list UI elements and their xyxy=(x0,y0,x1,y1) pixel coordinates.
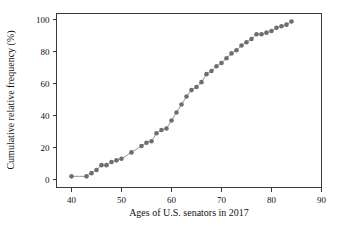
data-point xyxy=(234,48,239,53)
plot-frame xyxy=(57,14,322,188)
cumulative-frequency-chart: 405060708090 020406080100 Ages of U.S. s… xyxy=(0,0,341,229)
data-point xyxy=(104,163,109,168)
data-point xyxy=(254,32,259,37)
data-point xyxy=(94,168,99,173)
data-point xyxy=(69,174,74,179)
data-point xyxy=(214,64,219,69)
ogive-line xyxy=(72,21,292,176)
data-point xyxy=(179,102,184,107)
data-point xyxy=(169,118,174,123)
data-point xyxy=(119,156,124,161)
data-point xyxy=(174,110,179,115)
chart-figure: 405060708090 020406080100 Ages of U.S. s… xyxy=(0,0,341,229)
data-point xyxy=(184,94,189,99)
y-tick-label-80: 80 xyxy=(41,47,51,57)
x-tick-label-40: 40 xyxy=(67,195,77,205)
x-tick-label-90: 90 xyxy=(317,195,327,205)
data-series-points xyxy=(69,19,294,178)
data-point xyxy=(199,80,204,85)
data-point xyxy=(204,72,209,77)
data-point xyxy=(244,40,249,45)
x-axis-ticks xyxy=(72,188,322,192)
x-axis-tick-labels: 405060708090 xyxy=(67,195,327,205)
data-point xyxy=(264,30,269,35)
data-point xyxy=(139,144,144,149)
x-tick-label-70: 70 xyxy=(217,195,227,205)
data-point xyxy=(224,56,229,61)
y-axis-tick-labels: 020406080100 xyxy=(36,15,50,185)
data-point xyxy=(99,163,104,168)
data-point xyxy=(219,61,224,66)
y-tick-label-20: 20 xyxy=(41,143,51,153)
data-point xyxy=(89,171,94,176)
data-point xyxy=(289,19,294,24)
y-tick-label-60: 60 xyxy=(41,79,51,89)
x-tick-label-60: 60 xyxy=(167,195,177,205)
data-point xyxy=(209,69,214,74)
data-series-line xyxy=(72,21,292,176)
data-point xyxy=(129,150,134,155)
data-point xyxy=(284,22,289,27)
data-point xyxy=(159,128,164,133)
y-tick-label-0: 0 xyxy=(45,175,50,185)
y-axis-title: Cumulative relative frequency (%) xyxy=(5,30,17,169)
y-axis-ticks xyxy=(53,20,57,180)
data-point xyxy=(259,32,264,37)
data-point xyxy=(149,139,154,144)
y-tick-label-40: 40 xyxy=(41,111,51,121)
data-point xyxy=(249,37,254,42)
data-point xyxy=(84,174,89,179)
data-point xyxy=(154,131,159,136)
data-point xyxy=(189,88,194,93)
y-tick-label-100: 100 xyxy=(36,15,50,25)
plot-border xyxy=(57,14,322,188)
data-point xyxy=(194,85,199,90)
data-point xyxy=(269,29,274,34)
x-tick-label-50: 50 xyxy=(117,195,127,205)
data-point xyxy=(109,160,114,165)
data-point xyxy=(114,158,119,163)
data-point xyxy=(164,126,169,131)
data-point xyxy=(274,26,279,31)
data-point xyxy=(279,24,284,29)
data-point xyxy=(229,51,234,56)
x-tick-label-80: 80 xyxy=(267,195,277,205)
data-point xyxy=(144,141,149,146)
x-axis-title: Ages of U.S. senators in 2017 xyxy=(129,207,249,218)
data-point xyxy=(239,43,244,48)
